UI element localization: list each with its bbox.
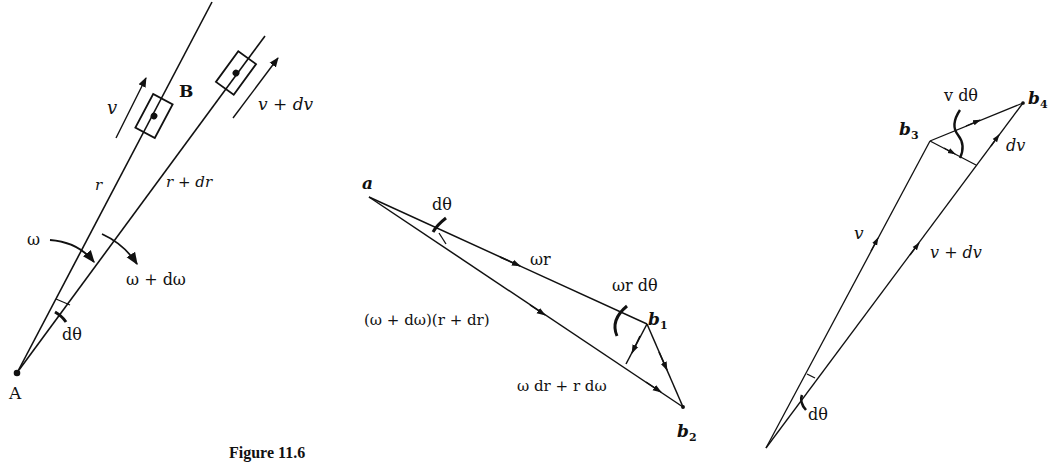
label-b4-subscript: 4 — [1040, 98, 1048, 111]
slider-block-B — [135, 94, 172, 138]
label-v-dv-right: v + dv — [930, 245, 982, 261]
label-b3-text: b — [899, 119, 911, 139]
label-dtheta-right: dθ — [808, 407, 828, 423]
figure-caption: Figure 11.6 — [229, 444, 305, 462]
label-point-B: B — [179, 83, 193, 100]
angular-velocity-arrow-omega — [50, 240, 94, 262]
vector-v — [766, 141, 930, 448]
label-r: r — [95, 178, 102, 193]
label-dv: dv — [1006, 138, 1025, 154]
label-point-a: a — [362, 175, 373, 192]
label-b3: b3 — [899, 121, 919, 141]
label-v-dtheta: v dθ — [944, 88, 978, 104]
vector-total — [369, 197, 683, 407]
label-dtheta: dθ — [62, 327, 82, 343]
label-b1-text: b — [648, 309, 660, 329]
label-omega: ω — [27, 232, 40, 248]
v-dtheta-pointer — [954, 110, 962, 158]
dtheta-arc-mark — [807, 374, 815, 378]
dtheta-arc-mark — [56, 299, 70, 305]
sliding-velocity-panel — [766, 102, 1024, 448]
label-v-dv: v + dv — [258, 96, 313, 113]
label-point-A: A — [9, 385, 21, 402]
label-b2: b2 — [677, 423, 697, 443]
label-v: v — [107, 99, 117, 117]
label-b2-subscript: 2 — [689, 431, 697, 444]
label-dtheta-a: dθ — [432, 197, 452, 213]
label-b1-subscript: 1 — [660, 319, 668, 332]
vector-v-dv — [766, 103, 1023, 448]
pivot-A-icon — [15, 371, 20, 376]
mechanism-panel — [15, 2, 279, 376]
label-omega-r-dtheta: ωr dθ — [612, 278, 658, 294]
label-omega-domega: ω + dω — [126, 272, 186, 288]
label-velocity-increment: ω dr + r dω — [517, 379, 607, 394]
label-b4-text: b — [1028, 88, 1040, 108]
label-r-dr: r + dr — [166, 175, 212, 190]
label-b2-text: b — [677, 421, 689, 441]
label-b3-subscript: 3 — [911, 129, 919, 142]
slider-block-2 — [216, 51, 256, 95]
label-b4: b4 — [1028, 90, 1048, 110]
dtheta-arc-mark — [439, 233, 446, 244]
label-v-right: v — [854, 225, 864, 242]
label-total-velocity: (ω + dω)(r + dr) — [364, 313, 490, 328]
label-omega-r: ωr — [530, 252, 551, 268]
label-b1: b1 — [648, 311, 668, 331]
velocity-arrow-v — [116, 78, 146, 138]
